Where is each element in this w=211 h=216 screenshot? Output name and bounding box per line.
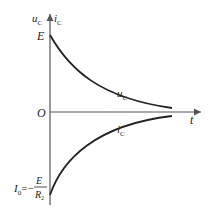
x-label-t: t: [190, 113, 194, 127]
origin-label: O: [37, 106, 46, 120]
ic-curve: [50, 116, 172, 195]
level-E: E: [36, 29, 45, 43]
level-I0: I0=−: [13, 182, 34, 197]
ic-curve-label: iC: [117, 123, 125, 138]
y-label-ic: iC: [54, 12, 62, 27]
uc-curve-label: uC: [117, 87, 128, 102]
frac-numerator: E: [35, 175, 42, 186]
capacitor-diagram: uC iC E O t uC iC I0=− E R2: [0, 0, 211, 216]
uc-curve: [50, 35, 172, 108]
y-label-uc: uC: [32, 12, 43, 27]
frac-denominator: R2: [34, 189, 44, 201]
